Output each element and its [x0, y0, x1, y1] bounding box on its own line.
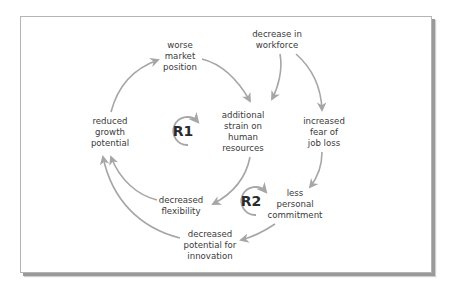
svg-text:personal: personal	[276, 199, 313, 209]
node-increased-fear: increased fear of job loss	[303, 116, 345, 148]
svg-text:potential: potential	[91, 138, 129, 148]
svg-text:workforce: workforce	[256, 40, 298, 50]
link-workforce-to-fear	[296, 54, 322, 110]
svg-text:worse: worse	[167, 40, 193, 50]
node-decreased-flexibility: decreased flexibility	[159, 195, 204, 216]
node-reduced-growth-potential: reduced growth potential	[91, 116, 129, 148]
loop-r2: R2	[241, 187, 266, 215]
loop-r1: R1	[173, 117, 198, 145]
node-additional-strain: additional strain on human resources	[222, 110, 265, 153]
svg-text:growth: growth	[95, 127, 125, 137]
svg-text:additional: additional	[222, 110, 265, 120]
svg-text:less: less	[287, 188, 304, 198]
svg-text:commitment: commitment	[268, 210, 324, 220]
svg-text:strain on: strain on	[224, 121, 262, 131]
svg-text:market: market	[165, 51, 196, 61]
svg-text:decreased: decreased	[159, 195, 204, 205]
causal-loop-diagram: R1 R2 worse market position decrease in …	[0, 0, 452, 292]
node-decrease-in-workforce: decrease in workforce	[252, 29, 302, 50]
r1-label: R1	[173, 123, 194, 139]
r2-label: R2	[241, 193, 262, 209]
svg-text:potential for: potential for	[184, 240, 237, 250]
node-less-commitment: less personal commitment	[268, 188, 324, 220]
svg-text:innovation: innovation	[187, 251, 232, 261]
link-fear-to-commitment	[310, 152, 322, 187]
link-commitment-to-innovation	[241, 224, 275, 240]
svg-text:decreased: decreased	[188, 229, 233, 239]
node-decreased-innovation: decreased potential for innovation	[184, 229, 237, 261]
svg-text:job loss: job loss	[307, 138, 341, 148]
svg-text:flexibility: flexibility	[161, 206, 200, 216]
svg-text:increased: increased	[303, 116, 345, 126]
svg-text:reduced: reduced	[92, 116, 127, 126]
link-worse-market-to-strain	[202, 59, 250, 101]
svg-text:resources: resources	[222, 143, 264, 153]
link-workforce-to-strain	[272, 54, 281, 99]
node-worse-market-position: worse market position	[163, 40, 197, 72]
svg-text:position: position	[163, 62, 197, 72]
svg-text:fear of: fear of	[310, 127, 339, 137]
link-reduced-growth-to-worse-market	[111, 60, 158, 112]
svg-text:human: human	[228, 132, 258, 142]
svg-text:decrease in: decrease in	[252, 29, 302, 39]
